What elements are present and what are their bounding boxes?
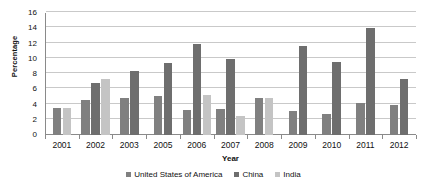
legend-item: India [275,170,300,179]
bar [130,71,139,135]
y-axis-tick-labels: 0246810121416 [0,13,41,135]
x-tickmark [247,135,248,139]
y-tick-label: 4 [33,101,37,109]
x-tick-label: 2001 [52,140,71,150]
legend-swatch-icon [275,172,280,177]
y-tick-label: 2 [33,116,37,124]
bar [53,108,62,135]
bar-chart: Percentage 0246810121416 200120022003200… [0,0,427,193]
x-tickmark [146,135,147,139]
x-tickmark [180,135,181,139]
x-tick-label: 2012 [390,140,409,150]
bar [226,59,235,135]
bar [164,63,173,135]
bar [299,46,308,135]
legend-item: China [234,170,263,179]
chart-legend: United States of AmericaChinaIndia [0,170,427,179]
x-tick-label: 2005 [154,140,173,150]
bar [332,62,341,135]
bar [63,108,72,135]
bar [366,28,375,136]
x-tickmark [112,135,113,139]
bar [120,98,129,135]
bar [356,103,365,135]
y-tick-label: 6 [33,85,37,93]
y-tick-label: 14 [28,24,37,32]
bar [101,79,110,135]
bar [91,83,100,135]
x-tickmark [416,135,417,139]
x-axis-tick-labels: 2001200220032005200620072008200920102011… [45,140,416,152]
x-tickmark [214,135,215,139]
y-tick-label: 10 [28,55,37,63]
bar [265,98,274,135]
y-tick-label: 0 [33,131,37,139]
x-tickmark [45,135,46,139]
x-tickmark [349,135,350,139]
bar [193,44,202,136]
legend-swatch-icon [234,172,239,177]
legend-label: China [242,170,263,179]
bar [154,96,163,135]
bar [203,95,212,135]
y-tick-label: 12 [28,40,37,48]
x-tick-label: 2003 [120,140,139,150]
bar [216,109,225,135]
x-tickmark [315,135,316,139]
bar [400,79,409,135]
legend-swatch-icon [126,172,131,177]
x-tick-label: 2007 [221,140,240,150]
legend-label: United States of America [134,170,222,179]
x-tickmark [281,135,282,139]
bar [183,110,192,135]
x-axis-title: Year [45,154,416,163]
x-tick-label: 2008 [255,140,274,150]
bars-layer [45,13,416,135]
x-tick-label: 2011 [356,140,374,150]
bar [255,98,264,135]
bar [322,114,331,135]
x-tick-label: 2002 [86,140,105,150]
gridline [46,11,416,12]
bar [390,105,399,136]
y-tick-label: 8 [33,70,37,78]
x-tick-label: 2010 [322,140,341,150]
bar [236,116,245,135]
x-tick-label: 2006 [187,140,206,150]
x-tickmark [79,135,80,139]
legend-label: India [283,170,300,179]
legend-item: United States of America [126,170,222,179]
x-tickmark [382,135,383,139]
bar [81,100,90,135]
y-tick-label: 16 [28,9,37,17]
x-tick-label: 2009 [288,140,307,150]
bar [289,111,298,135]
